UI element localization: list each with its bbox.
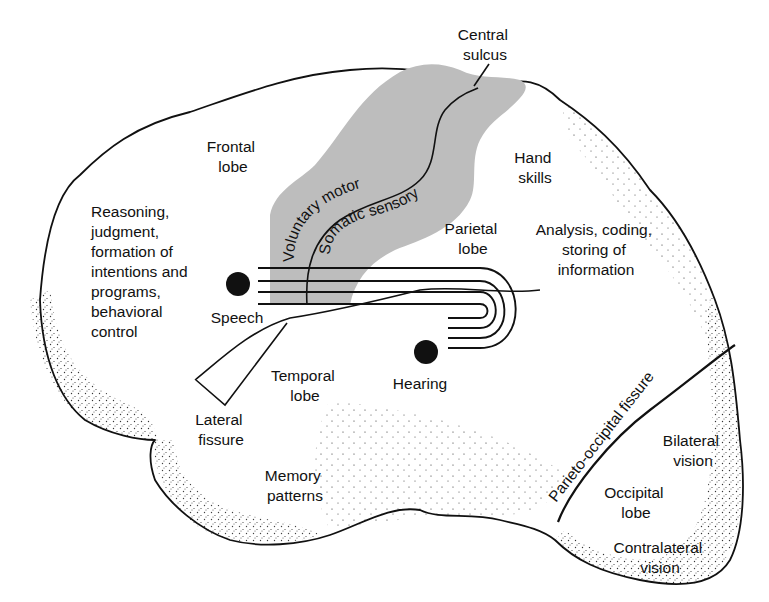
speech-dot (226, 272, 250, 296)
hearing-dot (414, 340, 438, 364)
brain-diagram: Central sulcus Frontal lobe Hand skills … (0, 0, 769, 602)
central-sulcus-label: Central sulcus (458, 26, 512, 63)
speech-label: Speech (211, 309, 264, 326)
hearing-label: Hearing (393, 375, 447, 392)
